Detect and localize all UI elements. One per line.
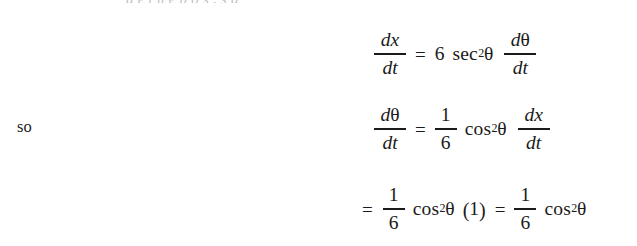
eq2-lhs-denominator: dt: [380, 133, 399, 154]
eq2-lhs-fraction-bar: [374, 128, 406, 130]
eq3-first-coefficient-fraction: 1 6: [383, 185, 405, 234]
eq2-rhs-num-var: x: [534, 104, 543, 125]
eq2-argument-theta: θ: [497, 119, 506, 139]
eq2-rhs-fraction-bar: [518, 128, 550, 130]
eq1-rhs-den-d: d: [513, 57, 523, 78]
eq2-equals-sign: =: [415, 120, 426, 139]
eq2-lhs-num-d: d: [380, 104, 390, 125]
eq2-lhs-numerator: dθ: [378, 105, 401, 126]
eq1-function-sec: sec: [452, 44, 478, 64]
eq1-rhs-den-var: t: [522, 57, 527, 78]
equation-2: dθ dt = 1 6 cos2θ dx dt: [374, 96, 550, 162]
eq2-coefficient-fraction: 1 6: [435, 105, 457, 154]
eq2-rhs-den-var: t: [536, 132, 541, 153]
eq3-factor-value: 1: [469, 199, 479, 219]
eq1-lhs-fraction-bar: [374, 53, 406, 55]
eq2-rhs-numerator: dx: [522, 105, 544, 126]
eq2-lhs-den-d: d: [382, 132, 392, 153]
cropped-text-line: g e t h e p o s , s g: [0, 0, 637, 3]
eq3-first-coefficient-denominator: 6: [387, 213, 401, 234]
eq1-lhs-num-var: x: [391, 29, 400, 50]
eq2-lhs-den-var: t: [392, 132, 397, 153]
eq2-function-cos: cos: [465, 119, 492, 139]
eq2-lhs-fraction: dθ dt: [374, 105, 406, 154]
eq1-rhs-numerator: dθ: [509, 30, 532, 51]
eq1-lhs-den-d: d: [382, 57, 392, 78]
eq1-lhs-numerator: dx: [379, 30, 401, 51]
equation-1: dx dt = 6 sec2θ dθ dt: [374, 21, 536, 87]
eq1-rhs-fraction: dθ dt: [504, 30, 536, 79]
eq1-rhs-num-var: θ: [521, 29, 530, 50]
eq3-second-coefficient-fraction: 1 6: [514, 185, 536, 234]
eq2-rhs-denominator: dt: [524, 133, 543, 154]
eq1-lhs-num-d: d: [381, 29, 391, 50]
eq2-coefficient-denominator: 6: [439, 133, 453, 154]
eq2-lhs-num-var: θ: [390, 104, 399, 125]
eq3-second-coefficient-numerator: 1: [519, 185, 533, 206]
eq3-second-coefficient-fraction-bar: [514, 208, 536, 210]
eq2-coefficient-fraction-bar: [435, 128, 457, 130]
equation-3: = 1 6 cos2θ (1) = 1 6 cos2θ: [362, 176, 586, 242]
eq3-leading-equals-sign: =: [362, 200, 373, 219]
eq3-first-argument-theta: θ: [445, 199, 454, 219]
connector-label-so: so: [17, 119, 32, 136]
eq1-lhs-den-var: t: [392, 57, 397, 78]
eq1-rhs-fraction-bar: [504, 53, 536, 55]
document-page: g e t h e p o s , s g so dx dt = 6 sec2θ…: [0, 0, 637, 246]
eq1-rhs-denominator: dt: [511, 58, 530, 79]
eq2-rhs-num-d: d: [524, 104, 534, 125]
eq3-second-coefficient-denominator: 6: [519, 213, 533, 234]
eq3-second-argument-theta: θ: [577, 199, 586, 219]
eq3-middle-equals-sign: =: [495, 200, 506, 219]
eq2-rhs-fraction: dx dt: [518, 105, 550, 154]
eq1-lhs-denominator: dt: [380, 58, 399, 79]
eq1-lhs-fraction: dx dt: [374, 30, 406, 79]
eq1-equals-sign: =: [415, 45, 426, 64]
eq2-coefficient-numerator: 1: [439, 105, 453, 126]
eq3-second-function-cos: cos: [544, 199, 571, 219]
eq2-rhs-den-d: d: [526, 132, 536, 153]
eq3-factor-close-paren: ): [479, 200, 486, 220]
eq3-first-coefficient-fraction-bar: [383, 208, 405, 210]
eq1-coefficient: 6: [435, 44, 445, 64]
eq3-first-coefficient-numerator: 1: [387, 185, 401, 206]
eq1-rhs-num-d: d: [511, 29, 521, 50]
eq3-factor-open-paren: (: [463, 200, 470, 220]
eq1-argument-theta: θ: [484, 44, 493, 64]
eq3-first-function-cos: cos: [413, 199, 440, 219]
